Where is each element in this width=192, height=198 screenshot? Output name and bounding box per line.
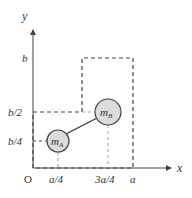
mass-a: mA (47, 130, 69, 152)
y-tick-b2: b/2 (8, 106, 23, 118)
y-tick-b: b (22, 52, 28, 64)
y-tick-b4: b/4 (8, 135, 23, 147)
y-axis-label: y (21, 9, 28, 23)
x-tick-3a4: 3a/4 (94, 173, 115, 185)
rod (66, 118, 97, 134)
center-of-mass-diagram: mA mB y x O b b/2 b/4 a/4 3a/4 a (0, 0, 192, 198)
mass-b: mB (95, 99, 121, 125)
x-tick-a: a (130, 173, 136, 185)
origin-label: O (24, 173, 32, 185)
x-tick-a4: a/4 (49, 173, 64, 185)
x-axis-label: x (176, 161, 183, 175)
